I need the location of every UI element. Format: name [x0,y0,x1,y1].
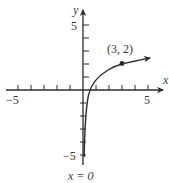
point-3-2 [120,61,125,66]
x-tick-label-neg5: −5 [6,93,19,107]
y-tick-label-neg5: −5 [63,149,76,163]
graph: y x 5 −5 5 −5 (3, 2) x = 0 [0,0,169,183]
y-tick-label-5: 5 [71,19,77,33]
log-curve [84,58,150,157]
asymptote-label: x = 0 [67,169,93,183]
x-axis-label: x [162,73,169,87]
y-axis-label: y [72,3,79,17]
x-tick-label-5: 5 [144,93,150,107]
point-label: (3, 2) [107,42,133,56]
